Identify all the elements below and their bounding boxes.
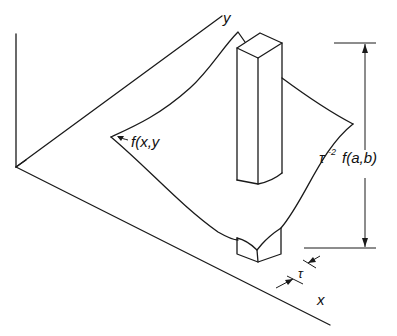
- surface-pointer: [117, 136, 128, 141]
- width-tau-label: τ: [298, 266, 304, 281]
- sampled-surface-diagram: y x f(x,y τ -2 f(a,b) τ: [0, 0, 397, 336]
- surface-front-right-edge: [257, 124, 353, 250]
- axes: [16, 16, 330, 325]
- x-axis-label: x: [316, 291, 325, 308]
- x-axis: [16, 167, 330, 325]
- pillar-top-face: [237, 33, 282, 58]
- surface-right-edge: [282, 78, 353, 124]
- arrow-right-icon: [285, 279, 293, 285]
- height-exponent-label: -2: [328, 147, 336, 157]
- arrow-up-icon: [362, 44, 368, 53]
- arrow-down-icon: [362, 238, 368, 247]
- y-axis-label: y: [222, 9, 232, 26]
- height-dimension: [304, 43, 376, 248]
- height-function-label: f(a,b): [342, 149, 377, 166]
- surface-label: f(x,y: [131, 133, 161, 150]
- pillar-bottom-cut: [237, 173, 282, 184]
- arrow-left-icon: [308, 257, 316, 263]
- pillar: [237, 33, 282, 262]
- origin-tick: [16, 160, 26, 167]
